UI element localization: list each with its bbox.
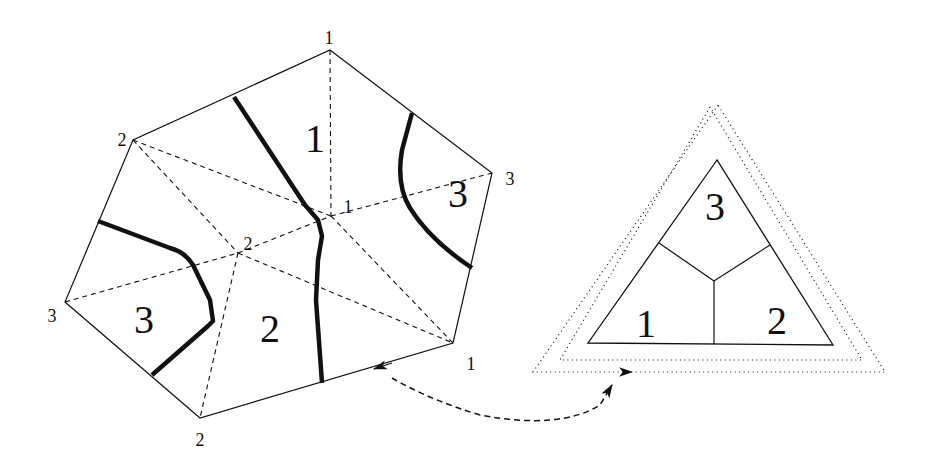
mapping-connector-arrow: [392, 378, 612, 421]
boundary-curve: [98, 221, 213, 375]
region-label: 3: [134, 297, 154, 342]
reference-triangle: 312: [533, 105, 885, 372]
vertex-labels: 13123212: [48, 28, 515, 450]
region-boundary-curves: [98, 97, 472, 383]
vertex-label: 2: [244, 234, 253, 254]
diagram-svg: 13123212 1332 312: [0, 0, 926, 473]
dashed-edge: [133, 140, 331, 216]
triangulated-polygon: 13123212 1332: [48, 28, 515, 450]
vertex-label: 1: [467, 354, 476, 374]
region-label: 2: [260, 306, 280, 351]
triangle-dividers: [659, 243, 770, 344]
region-divider: [714, 245, 770, 281]
dashed-edge: [65, 253, 238, 302]
region-label: 3: [705, 184, 725, 229]
region-label: 1: [636, 301, 656, 346]
diagram-canvas: 13123212 1332 312: [0, 0, 926, 473]
dashed-edge: [133, 140, 238, 253]
triangle-region-labels: 312: [636, 184, 787, 346]
vertex-label: 3: [48, 306, 57, 326]
region-label: 2: [767, 298, 787, 343]
vertex-label: 1: [344, 197, 353, 217]
dashed-edge: [200, 253, 238, 418]
dashed-edge: [330, 50, 331, 216]
vertex-label: 2: [118, 130, 127, 150]
region-labels: 1332: [134, 116, 468, 351]
dotted-outline-inner: [560, 107, 862, 360]
vertex-label: 2: [196, 430, 205, 450]
region-label: 1: [305, 116, 325, 161]
region-label: 3: [448, 171, 468, 216]
vertex-label: 3: [506, 169, 515, 189]
vertex-label: 1: [325, 28, 334, 48]
dotted-outline-outer: [533, 105, 885, 372]
dashed-edge: [331, 216, 453, 343]
region-divider: [659, 243, 714, 281]
